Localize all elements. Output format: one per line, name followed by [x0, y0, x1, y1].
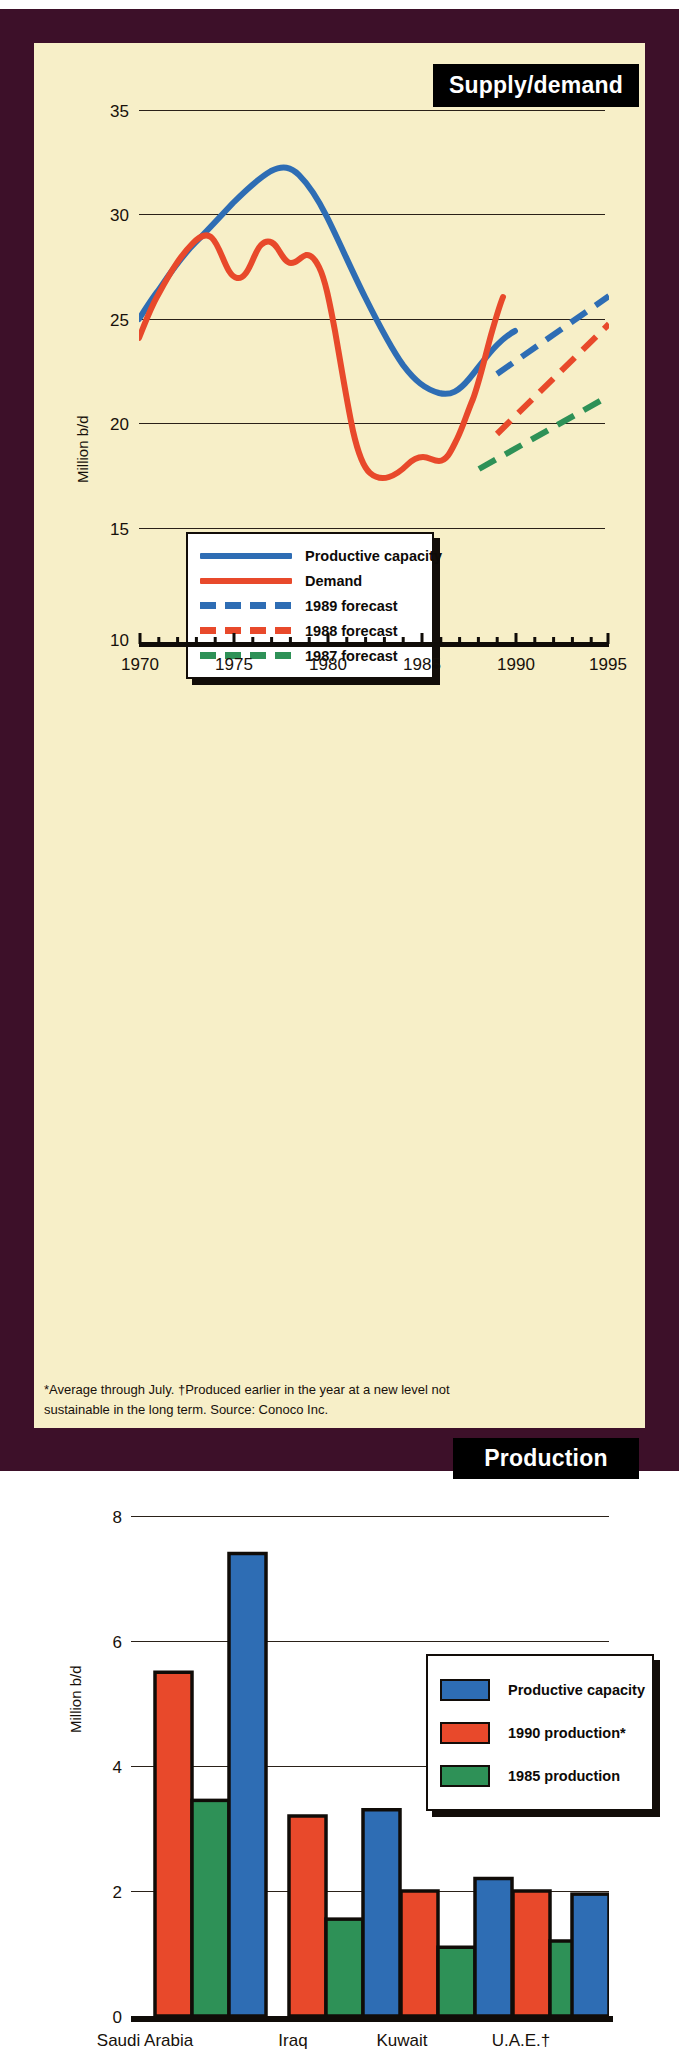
bar-uae-1990 — [513, 1891, 550, 2016]
legend-item: 1989 forecast — [200, 593, 418, 618]
bar-iraq-1990 — [289, 1816, 326, 2016]
bar-kuwait-1990 — [401, 1891, 438, 2016]
sd-x-axis — [137, 633, 611, 653]
sd-xtick-1980: 1980 — [293, 655, 363, 675]
production-title: Production — [484, 1445, 607, 1472]
bar-uae-capacity — [572, 1894, 609, 2016]
sd-ytick-10: 10 — [89, 631, 129, 651]
legend-label: Demand — [305, 573, 362, 589]
legend-label: 1985 production — [508, 1768, 620, 1784]
prod-x-axis — [131, 2016, 613, 2022]
footnote-line-2: sustainable in the long term. Source: Co… — [44, 1400, 635, 1420]
prod-ytick-0: 0 — [82, 2008, 122, 2028]
legend-label: 1989 forecast — [305, 598, 398, 614]
prod-category-saudi-arabia: Saudi Arabia — [80, 2031, 210, 2051]
sd-ytick-20: 20 — [89, 415, 129, 435]
bar-iraq-capacity — [363, 1810, 400, 2016]
sd-line-demand — [139, 235, 503, 478]
chart-panel: Supply/demand Million b/d 35 30 25 20 15… — [34, 43, 645, 1428]
legend-item: Productive capacity — [200, 543, 418, 568]
legend-swatch-1989-forecast — [200, 602, 292, 609]
sd-xtick-1985: 1985 — [387, 655, 457, 675]
prod-ytick-2: 2 — [82, 1883, 122, 1903]
production-chart: Production Million b/d 8 6 4 2 0 — [34, 733, 645, 1353]
prod-category-iraq: Iraq — [253, 2031, 333, 2051]
footnote-line-1: *Average through July. †Produced earlier… — [44, 1380, 635, 1400]
legend-label: Productive capacity — [508, 1682, 645, 1698]
legend-label: 1990 production* — [508, 1725, 626, 1741]
bar-saudi-1985 — [192, 1800, 229, 2016]
bar-kuwait-capacity — [475, 1879, 512, 2017]
sd-ytick-35: 35 — [89, 102, 129, 122]
production-ylabel: Million b/d — [67, 1665, 84, 1733]
legend-swatch-1990-production — [440, 1722, 490, 1744]
top-white-strip — [0, 0, 679, 9]
production-title-badge: Production — [453, 1438, 639, 1479]
sd-line-1988-forecast — [497, 324, 609, 434]
prod-ytick-4: 4 — [82, 1758, 122, 1778]
bar-iraq-1985 — [326, 1919, 363, 2016]
legend-swatch-demand — [200, 578, 292, 584]
production-legend: Productive capacity 1990 production* 198… — [426, 1654, 654, 1811]
prod-ytick-6: 6 — [82, 1633, 122, 1653]
footnote: *Average through July. †Produced earlier… — [44, 1380, 635, 1419]
sd-xtick-1990: 1990 — [481, 655, 551, 675]
legend-swatch-productive-capacity — [200, 553, 292, 559]
prod-ytick-8: 8 — [82, 1508, 122, 1528]
legend-item: Demand — [200, 568, 418, 593]
legend-swatch-1985-production — [440, 1765, 490, 1787]
bar-saudi-1990 — [155, 1672, 192, 2016]
legend-item: 1985 production — [440, 1754, 640, 1797]
sd-xtick-1970: 1970 — [105, 655, 175, 675]
prod-category-uae: U.A.E.† — [466, 2031, 576, 2051]
prod-category-kuwait: Kuwait — [352, 2031, 452, 2051]
sd-ytick-25: 25 — [89, 311, 129, 331]
legend-item: Productive capacity — [440, 1668, 640, 1711]
sd-ytick-30: 30 — [89, 206, 129, 226]
bar-kuwait-1985 — [438, 1947, 475, 2016]
sd-ytick-15: 15 — [89, 520, 129, 540]
legend-swatch-productive-capacity — [440, 1679, 490, 1701]
legend-item: 1990 production* — [440, 1711, 640, 1754]
sd-xtick-1975: 1975 — [199, 655, 269, 675]
bar-saudi-capacity — [229, 1554, 266, 2017]
sd-xtick-1995: 1995 — [573, 655, 643, 675]
supply-demand-chart: Supply/demand Million b/d 35 30 25 20 15… — [34, 43, 645, 733]
legend-label: Productive capacity — [305, 548, 442, 564]
